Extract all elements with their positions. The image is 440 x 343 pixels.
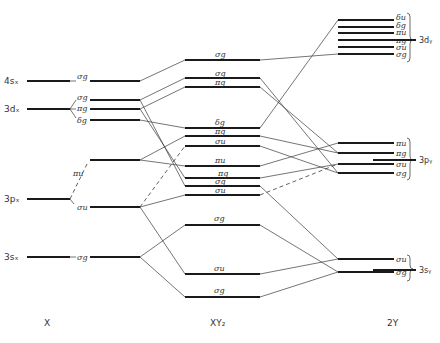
label-3d-y: 3dᵧ: [419, 36, 432, 45]
labels-layer: 3dᵧ 3pᵧ 3sᵧ X XY₂ 2Y: [0, 0, 440, 343]
column-label-2y: 2Y: [387, 318, 399, 328]
column-label-xy2: XY₂: [210, 318, 226, 328]
label-3s-y: 3sᵧ: [419, 266, 431, 275]
label-3p-y: 3pᵧ: [419, 156, 432, 165]
column-label-x: X: [44, 318, 50, 328]
